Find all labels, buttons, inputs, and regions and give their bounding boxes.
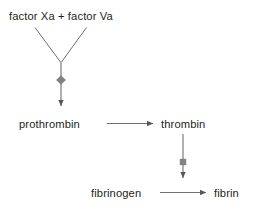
catalysis-square-marker <box>180 159 186 165</box>
diagram-canvas: factor Xa + factor Va prothrombin thromb… <box>0 0 263 214</box>
node-label-factors: factor Xa + factor Va <box>9 10 113 23</box>
node-label-fibrinogen: fibrinogen <box>91 187 141 200</box>
edge-factor-xa-branch <box>35 28 61 63</box>
diagram-connectors <box>0 0 263 214</box>
edge-factor-va-branch <box>62 28 87 63</box>
node-label-prothrombin: prothrombin <box>19 118 80 131</box>
catalysis-diamond-marker <box>56 75 66 85</box>
node-label-fibrin: fibrin <box>214 187 239 200</box>
node-label-thrombin: thrombin <box>161 118 205 131</box>
